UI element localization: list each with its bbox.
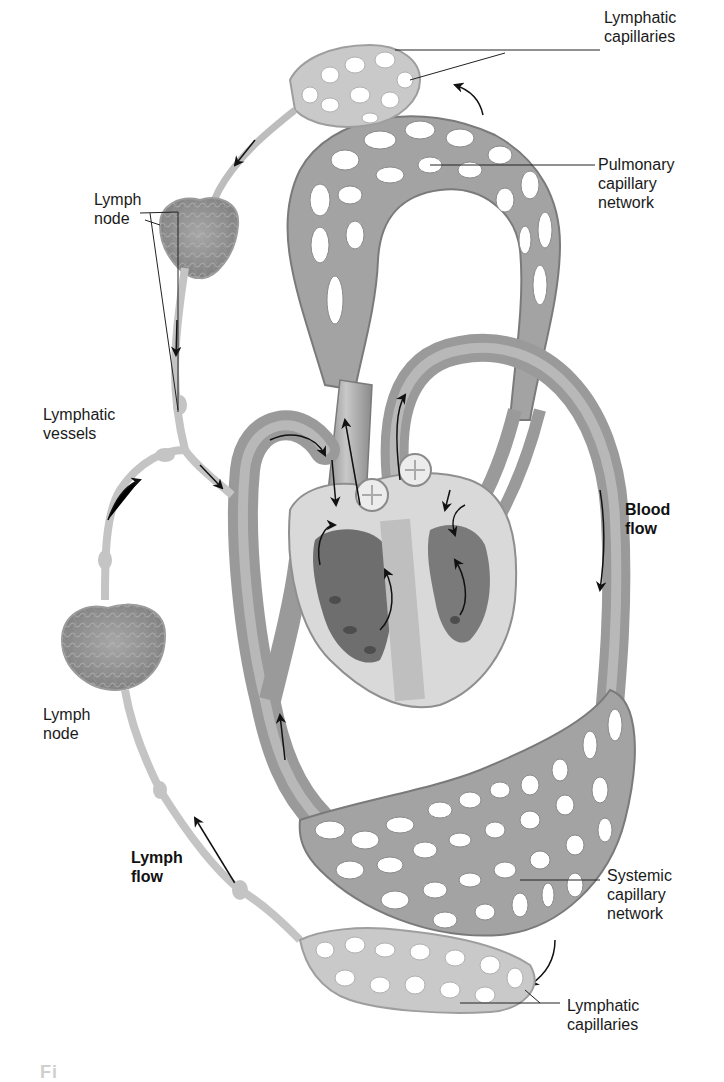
- label-pulmonary-capillary-network: Pulmonary capillary network: [598, 155, 674, 212]
- label-lymph-node-bottom: Lymph node: [43, 705, 90, 743]
- label-lymphatic-capillaries-top: Lymphatic capillaries: [604, 8, 676, 46]
- label-blood-flow: Blood flow: [625, 500, 670, 538]
- lymphatic-capillaries-bottom: [300, 928, 534, 1013]
- figure-caption-partial: Fi: [40, 1062, 58, 1082]
- heart: [289, 454, 516, 707]
- lymph-node-top: [160, 198, 238, 278]
- systemic-capillary-network: [300, 690, 635, 936]
- label-lymphatic-vessels: Lymphatic vessels: [43, 405, 115, 443]
- label-lymph-node-top: Lymph node: [94, 190, 141, 228]
- label-lymph-flow: Lymph flow: [131, 848, 183, 886]
- label-lymphatic-capillaries-bottom: Lymphatic capillaries: [567, 996, 639, 1034]
- label-systemic-capillary-network: Systemic capillary network: [607, 866, 672, 923]
